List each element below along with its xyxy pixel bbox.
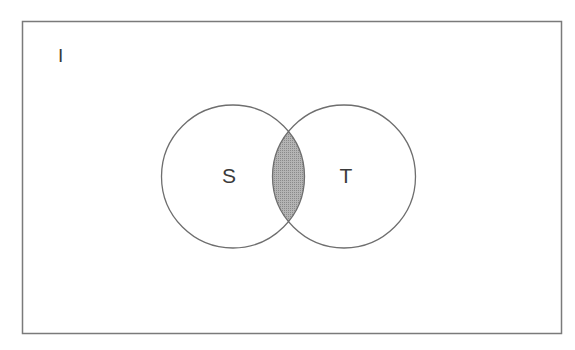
venn-diagram: I S T: [0, 0, 575, 350]
set-t-label: T: [340, 164, 353, 187]
set-s-label: S: [222, 164, 236, 187]
universe-label: I: [58, 45, 63, 66]
